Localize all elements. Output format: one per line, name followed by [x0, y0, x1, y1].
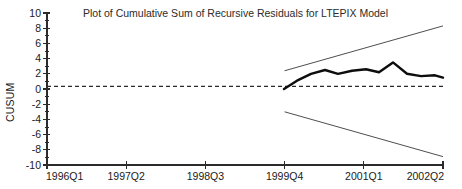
x-tick-label: 1998Q3 [187, 170, 225, 182]
y-tick-label-group: 1086420-2-4-6-8-10 [26, 7, 41, 171]
cusum-chart: Plot of Cumulative Sum of Recursive Resi… [0, 0, 462, 189]
x-tick-label-group: 1996Q11997Q21998Q31999Q42001Q12002Q2 [46, 170, 444, 182]
x-tick-label: 1997Q2 [108, 170, 146, 182]
x-tick-label: 1999Q4 [266, 170, 304, 182]
y-tick-label: 4 [35, 52, 41, 64]
y-tick-label: 2 [35, 67, 41, 79]
cusum-series-line [284, 62, 443, 89]
chart-canvas: Plot of Cumulative Sum of Recursive Resi… [0, 0, 462, 189]
upper-significance-band [285, 26, 443, 71]
y-tick-label: -10 [26, 159, 41, 171]
y-tick-label: -8 [32, 143, 41, 155]
y-tick-label: 6 [35, 37, 41, 49]
y-tick-label: 10 [29, 7, 41, 19]
y-tick-label: -6 [32, 128, 41, 140]
x-tick-label: 2002Q2 [407, 170, 445, 182]
y-tick-label: -4 [32, 113, 41, 125]
x-tick-label: 1996Q1 [46, 170, 84, 182]
y-tick-label: 8 [35, 22, 41, 34]
lower-significance-band [285, 112, 443, 157]
y-tick-label: -2 [32, 98, 41, 110]
x-tick-label: 2001Q1 [345, 170, 383, 182]
y-axis-label: CUSUM [4, 83, 16, 123]
y-tick-label: 0 [35, 83, 41, 95]
chart-title: Plot of Cumulative Sum of Recursive Resi… [83, 7, 388, 19]
